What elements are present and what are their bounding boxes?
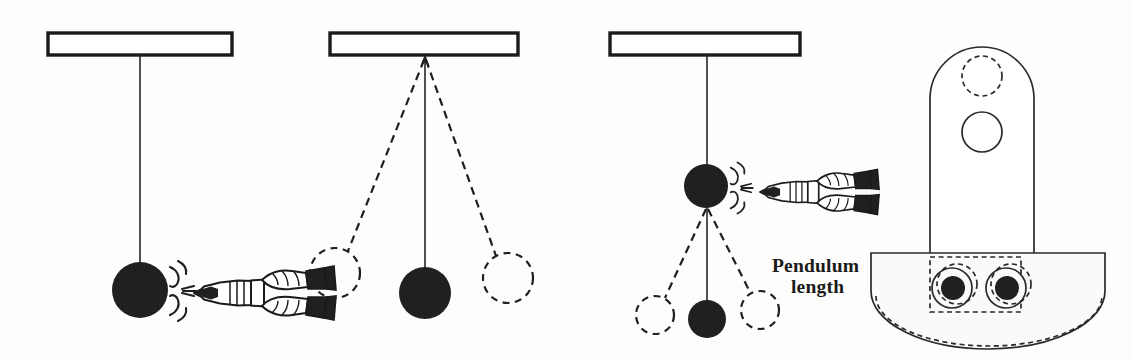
pivot-hole [962, 112, 1002, 152]
swing-arm-right [426, 60, 496, 256]
ghost-bob-left [636, 296, 674, 334]
pendulum-bob-lower [688, 300, 726, 338]
panel-2-swinging-pendulum [310, 33, 533, 319]
support-bar [48, 33, 232, 55]
pendulum-arm [930, 47, 1034, 268]
panel-3-compound-pendulum: Pendulum length [610, 33, 879, 338]
pendulum-bob-upper [684, 164, 728, 208]
support-bar [610, 33, 800, 55]
pendulum-bob [112, 262, 168, 318]
pendulum-length-label-line2: length [791, 276, 844, 297]
figure-canvas: Pendulum length [0, 0, 1133, 361]
striker-hands-with-mallet [760, 169, 879, 214]
pendulum-bob [399, 267, 451, 319]
panel-1-simple-pendulum [48, 33, 336, 321]
pendulum-length-label-line1: Pendulum [772, 255, 859, 276]
swing-arm-right [708, 209, 751, 294]
ghost-bob-right [741, 291, 779, 329]
pendulum-figure: Pendulum length [0, 0, 1133, 361]
impact-marks [731, 163, 753, 214]
bolt-head-right [995, 276, 1019, 300]
support-bar [330, 33, 518, 55]
panel-4-physical-pendulum [871, 47, 1105, 349]
impact-marks [170, 261, 196, 321]
bolt-head-left [941, 276, 965, 300]
swing-arm-left [665, 209, 706, 298]
ghost-bob-right [483, 253, 533, 303]
bob-weight [871, 253, 1105, 349]
swing-arm-left [348, 60, 424, 251]
striker-hands-with-mallet [194, 266, 336, 320]
